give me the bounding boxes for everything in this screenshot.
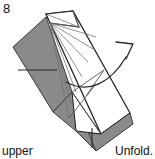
caption-right: Unfold.: [115, 144, 153, 158]
caption-left: upper: [2, 144, 33, 158]
step-number: 8: [3, 1, 10, 16]
origami-diagram-svg: [0, 0, 155, 159]
origami-step-figure: 8 upper Unfold.: [0, 0, 155, 159]
